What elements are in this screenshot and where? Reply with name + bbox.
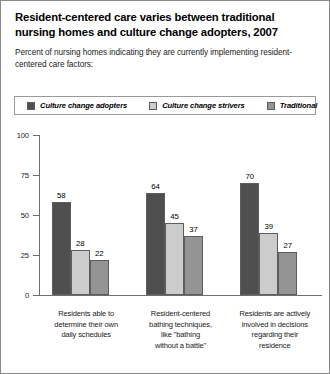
bar [90, 260, 109, 295]
bar [240, 183, 259, 295]
bar [52, 202, 71, 295]
legend-swatch-strivers [149, 102, 157, 110]
bar-value-label: 58 [48, 191, 75, 200]
plot-area: 0255075100 582822644537703927 [1, 127, 330, 307]
category-label-line: bathing techniques, [133, 320, 227, 331]
category-label: Resident-centeredbathing techniques,like… [133, 309, 227, 352]
chart-subtitle: Percent of nursing homes indicating they… [15, 47, 315, 71]
category-label-line: Residents are actively [228, 309, 322, 320]
y-tick-label-75: 75 [0, 171, 29, 180]
bar-value-label: 64 [142, 182, 169, 191]
bar-value-label: 45 [161, 212, 188, 221]
bar-group: 703927 [228, 135, 322, 295]
bar-value-label: 22 [86, 249, 113, 258]
category-label-line: like "bathing [133, 330, 227, 341]
category-label-line: Resident-centered [133, 309, 227, 320]
category-label-line: residence [228, 341, 322, 352]
page-title: Resident-centered care varies between tr… [15, 10, 315, 40]
y-tick-label-100: 100 [0, 131, 29, 140]
bar-group: 582822 [39, 135, 133, 295]
chart-header: Resident-centered care varies between tr… [1, 1, 329, 71]
category-label-line: determine their own [39, 320, 133, 331]
legend-swatch-adopters [27, 102, 35, 110]
bar-group: 644537 [133, 135, 227, 295]
y-tick-label-25: 25 [0, 251, 29, 260]
legend-label-traditional: Traditional [280, 101, 318, 110]
category-label: Residents able todetermine their owndail… [39, 309, 133, 341]
legend-label-adopters: Culture change adopters [40, 101, 127, 110]
legend-item-adopters: Culture change adopters [27, 101, 127, 110]
bars-layer: 582822644537703927 [39, 135, 322, 295]
bar [184, 236, 203, 295]
legend-swatch-traditional [267, 102, 275, 110]
bar-value-label: 39 [255, 222, 282, 231]
bar-value-label: 27 [274, 241, 301, 250]
chart-figure: Resident-centered care varies between tr… [0, 0, 330, 374]
category-label-line: daily schedules [39, 330, 133, 341]
category-label-line: involved in decisions [228, 320, 322, 331]
bar-value-label: 37 [180, 225, 207, 234]
category-label-line: Residents able to [39, 309, 133, 320]
category-label: Residents are activelyinvolved in decisi… [228, 309, 322, 352]
category-label-line: regarding their [228, 330, 322, 341]
legend-item-traditional: Traditional [267, 101, 318, 110]
x-axis-line [39, 295, 322, 296]
y-tick-label-0: 0 [0, 291, 29, 300]
bar [278, 252, 297, 295]
bar [146, 193, 165, 295]
chart-legend: Culture change adopters Culture change s… [14, 96, 316, 115]
bar-value-label: 28 [67, 239, 94, 248]
bar-value-label: 70 [236, 172, 263, 181]
y-tick-label-50: 50 [0, 211, 29, 220]
legend-item-strivers: Culture change strivers [149, 101, 245, 110]
legend-label-strivers: Culture change strivers [162, 101, 245, 110]
y-tick-0 [33, 295, 39, 296]
category-labels: Residents able todetermine their owndail… [39, 309, 322, 371]
category-label-line: without a battle" [133, 341, 227, 352]
